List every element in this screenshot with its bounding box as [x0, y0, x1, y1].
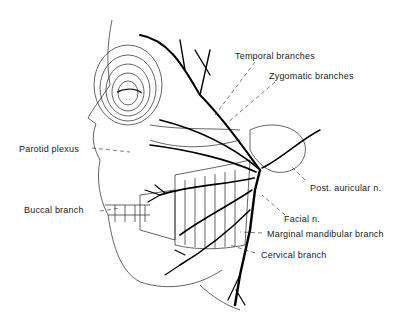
buccal-branch-nerve: [160, 178, 254, 195]
label-parotid-plexus: Parotid plexus: [19, 145, 79, 154]
facial-nerve-trunk: [235, 170, 260, 305]
facial-nerve-diagram: Temporal branches Zygomatic branches Par…: [0, 0, 400, 314]
posterior-auricular-nerve: [262, 130, 320, 168]
label-buccal-branch: Buccal branch: [24, 206, 84, 215]
zygomatic-branch: [160, 120, 258, 168]
jaw-outline: [98, 160, 222, 287]
label-facial-n: Facial n.: [284, 215, 320, 224]
marginal-mandibular-nerve: [180, 190, 252, 235]
anatomical-illustration: [0, 0, 400, 314]
label-marginal-mandibular-branch: Marginal mandibular branch: [267, 230, 384, 239]
label-temporal-branches: Temporal branches: [235, 52, 315, 61]
label-post-auricular-n: Post. auricular n.: [310, 184, 381, 193]
label-zygomatic-branches: Zygomatic branches: [269, 72, 354, 81]
label-cervical-branch: Cervical branch: [261, 251, 327, 260]
